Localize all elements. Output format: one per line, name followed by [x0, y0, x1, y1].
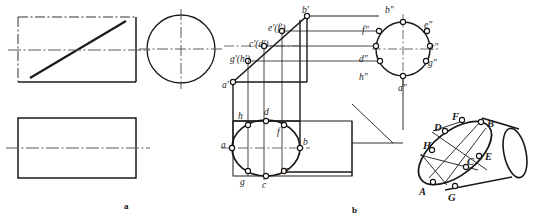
point-b	[297, 145, 302, 150]
point-d	[263, 118, 268, 123]
caption-a: a	[124, 201, 129, 211]
point-f	[281, 122, 286, 127]
point-label-h-dprime: h″	[359, 73, 368, 83]
point-label-B-upper: B	[487, 119, 494, 130]
point-a-prime	[230, 79, 235, 84]
technical-drawing-canvas	[0, 0, 541, 224]
point-label-g-dprime: g″	[428, 59, 437, 69]
point-g	[245, 168, 250, 173]
point-label-g: g	[240, 178, 245, 188]
drawing-sheet: b′e′(f′)c′(d′)g′(h′)a′b″f″e″c″d″g″h″a″hd…	[0, 0, 541, 224]
point-label-C-upper: C	[467, 157, 474, 168]
point-h	[245, 122, 250, 127]
point-label-f: f	[277, 128, 280, 138]
point-label-c: c	[262, 181, 266, 191]
front-view-outline	[8, 17, 150, 82]
point-label-e-dprime: e″	[424, 21, 432, 31]
point-label-cd-prime: c′(d′)	[249, 40, 268, 50]
mitre-line	[352, 104, 393, 143]
front-projection-group	[224, 13, 379, 180]
point-label-a-dprime: a″	[398, 84, 407, 94]
cylinder-end-cap	[499, 126, 531, 179]
figure-a-group	[6, 9, 223, 178]
point-label-a-prime: a′	[222, 81, 229, 91]
point-label-e: e	[285, 166, 289, 176]
point-label-b-prime: b′	[302, 6, 309, 16]
point-label-A-upper: A	[419, 187, 426, 198]
point-label-c-dprime: c″	[430, 43, 438, 53]
point-a-dprime	[400, 73, 405, 78]
point-f-dprime	[376, 28, 381, 33]
point-label-h: h	[238, 112, 243, 122]
side-projection-group	[372, 14, 438, 130]
point-d-dprime	[373, 43, 378, 48]
caption-b: b	[352, 205, 357, 215]
point-D-upper	[442, 128, 447, 133]
point-label-d: d	[264, 108, 269, 118]
point-label-E-upper: E	[485, 152, 492, 163]
point-label-b: b	[303, 138, 308, 148]
point-label-d-dprime: d″	[359, 55, 368, 65]
point-h-dprime	[377, 58, 382, 63]
point-a	[229, 145, 234, 150]
point-F-upper	[459, 117, 464, 122]
point-E-upper	[476, 153, 481, 158]
point-label-ef-prime: e′(f′)	[268, 24, 285, 34]
point-B-upper	[478, 119, 483, 124]
point-b-dprime	[400, 19, 405, 24]
point-A-upper	[430, 179, 435, 184]
point-label-D-upper: D	[434, 123, 442, 134]
point-label-a: a	[221, 141, 226, 151]
point-label-G-upper: G	[448, 193, 456, 204]
side-view-circle-group	[139, 9, 223, 89]
top-view-rect-group	[6, 118, 150, 178]
point-G-upper	[452, 183, 457, 188]
point-label-H-upper: H	[423, 141, 431, 152]
point-label-b-dprime: b″	[385, 6, 394, 16]
point-c	[263, 173, 268, 178]
point-label-f-dprime: f″	[362, 26, 369, 36]
point-label-F-upper: F	[452, 112, 459, 123]
point-label-gh-prime: g′(h′)	[230, 55, 250, 65]
pictorial-cylinder-group	[408, 109, 531, 197]
